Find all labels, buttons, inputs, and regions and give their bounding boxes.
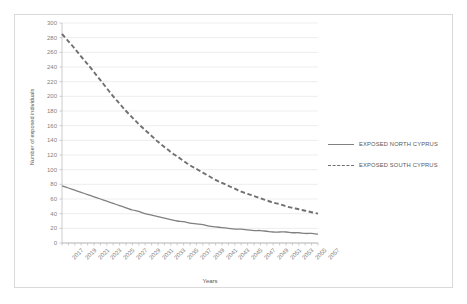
y-axis-title: Number of exposed individuals bbox=[29, 62, 35, 192]
y-tick-label: 280 bbox=[35, 35, 57, 41]
y-tick-label: 220 bbox=[35, 79, 57, 85]
series-line-south bbox=[62, 34, 318, 214]
y-tick-label: 100 bbox=[35, 167, 57, 173]
y-tick-label: 60 bbox=[35, 196, 57, 202]
series-line-north bbox=[62, 186, 318, 234]
y-tick-label: 140 bbox=[35, 137, 57, 143]
y-tick-label: 200 bbox=[35, 93, 57, 99]
y-tick-label: 240 bbox=[35, 64, 57, 70]
legend-label-north: EXPOSED NORTH CYPRUS bbox=[359, 141, 438, 147]
y-tick-label: 80 bbox=[35, 181, 57, 187]
chart-area: 0204060801001201401601802002202402602803… bbox=[0, 0, 467, 304]
y-tick-label: 160 bbox=[35, 123, 57, 129]
y-tick-label: 180 bbox=[35, 108, 57, 114]
y-tick-label: 120 bbox=[35, 152, 57, 158]
x-axis-title: Years bbox=[150, 278, 270, 284]
legend-key-dashed-icon bbox=[328, 165, 354, 166]
y-tick-label: 20 bbox=[35, 225, 57, 231]
legend-label-south: EXPOSED SOUTH CYPRUS bbox=[359, 162, 438, 168]
y-tick-label: 260 bbox=[35, 49, 57, 55]
legend-key-solid-icon bbox=[328, 144, 354, 145]
legend-item-north: EXPOSED NORTH CYPRUS bbox=[328, 140, 438, 148]
chart-legend: EXPOSED NORTH CYPRUS EXPOSED SOUTH CYPRU… bbox=[328, 140, 438, 182]
legend-item-south: EXPOSED SOUTH CYPRUS bbox=[328, 161, 438, 169]
y-tick-label: 300 bbox=[35, 20, 57, 26]
y-tick-label: 40 bbox=[35, 211, 57, 217]
y-tick-label: 0 bbox=[35, 240, 57, 246]
